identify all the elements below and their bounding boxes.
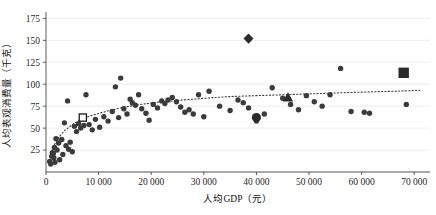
data-point-diamond — [244, 33, 254, 43]
trendline — [50, 90, 420, 157]
y-tick-label: 75 — [31, 102, 41, 112]
data-point-circle — [105, 118, 110, 123]
data-point-circle — [262, 111, 267, 116]
data-points — [47, 33, 409, 166]
data-point-circle — [217, 103, 222, 108]
data-point-circle — [338, 66, 343, 71]
x-tick-label: 30 000 — [191, 177, 217, 187]
data-point-circle — [327, 92, 332, 97]
data-point-circle — [83, 92, 88, 97]
data-point-circle — [59, 137, 64, 142]
x-tick-label: 70 000 — [401, 177, 427, 187]
data-point-circle — [136, 92, 141, 97]
data-point-circle — [133, 103, 138, 108]
data-point-circle — [155, 105, 160, 110]
x-tick-label: 10 000 — [86, 177, 112, 187]
x-tick-label: 40 000 — [243, 177, 269, 187]
data-point-circle — [62, 120, 67, 125]
data-point-circle — [367, 110, 372, 115]
y-tick-label: 25 — [31, 145, 41, 155]
data-point-circle — [362, 110, 367, 115]
data-point-circle — [246, 105, 251, 110]
data-point-circle — [97, 125, 102, 130]
data-point-circle — [241, 100, 246, 105]
y-tick-label: 175 — [26, 14, 41, 24]
data-point-circle — [191, 111, 196, 116]
data-point-circle — [67, 139, 72, 144]
data-point-circle — [124, 111, 129, 116]
data-point-circle — [404, 102, 409, 107]
chart-canvas: 255075100125150175 010 00020 00030 00040… — [0, 0, 436, 215]
data-point-circle — [288, 102, 293, 107]
x-tick-label: 60 000 — [349, 177, 375, 187]
data-point-circle — [304, 93, 309, 98]
data-point-circle — [116, 115, 121, 120]
data-point-filled-square — [398, 68, 408, 78]
data-point-circle — [151, 102, 156, 107]
data-point-circle — [196, 92, 201, 97]
y-tick-label: 125 — [26, 58, 41, 68]
data-point-circle — [235, 97, 240, 102]
data-point-circle — [86, 122, 91, 127]
y-tick-label: 50 — [31, 124, 41, 134]
data-point-circle — [146, 118, 151, 123]
scatter-chart: 255075100125150175 010 00020 00030 00040… — [0, 0, 436, 215]
data-point-circle — [81, 123, 86, 128]
data-point-circle — [90, 127, 95, 132]
y-axis-title: 人均表观消费量（千克） — [1, 38, 12, 148]
data-point-circle — [178, 104, 183, 109]
data-point-circle — [269, 85, 274, 90]
y-tick-label: 100 — [26, 80, 41, 90]
data-point-circle — [60, 152, 65, 157]
data-point-circle — [296, 107, 301, 112]
data-point-circle — [110, 109, 115, 114]
data-point-circle — [101, 114, 106, 119]
data-point-large-circle — [252, 113, 261, 122]
data-point-circle — [113, 84, 118, 89]
x-axis-title: 人均GDP（元） — [203, 193, 272, 204]
data-point-circle — [170, 95, 175, 100]
x-axis-tick-labels: 010 00020 00030 00040 00050 00060 00070 … — [44, 177, 428, 187]
axes — [43, 12, 430, 175]
data-point-circle — [139, 106, 144, 111]
data-point-circle — [118, 75, 123, 80]
data-point-circle — [319, 103, 324, 108]
data-point-circle — [206, 89, 211, 94]
data-point-circle — [143, 110, 148, 115]
data-point-circle — [348, 109, 353, 114]
data-point-circle — [312, 99, 317, 104]
data-point-circle — [57, 157, 62, 162]
data-point-circle — [121, 106, 126, 111]
data-point-circle — [65, 98, 70, 103]
x-tick-label: 20 000 — [138, 177, 164, 187]
data-point-circle — [227, 108, 232, 113]
x-tick-label: 50 000 — [296, 177, 322, 187]
data-point-circle — [186, 107, 191, 112]
y-axis-tick-labels: 255075100125150175 — [26, 14, 41, 156]
gridlines — [46, 18, 430, 172]
trendline-path — [50, 90, 420, 157]
y-tick-label: 150 — [26, 36, 41, 46]
x-tick-label: 0 — [44, 177, 49, 187]
data-point-circle — [70, 149, 75, 154]
data-point-circle — [54, 147, 59, 152]
data-point-circle — [201, 114, 206, 119]
data-point-circle — [52, 160, 57, 165]
data-point-circle — [174, 99, 179, 104]
data-point-circle — [74, 129, 79, 134]
data-point-circle — [93, 117, 98, 122]
data-point-open-square — [79, 114, 86, 121]
